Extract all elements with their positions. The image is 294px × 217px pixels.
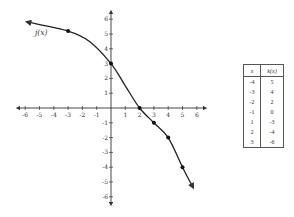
x-tick-label: 3 — [152, 111, 156, 118]
cell-kx: 5 — [261, 77, 284, 88]
data-point — [166, 136, 170, 140]
table-row: -10 — [244, 107, 284, 117]
function-label: j(x) — [33, 28, 47, 37]
y-tick-label: 1 — [104, 89, 108, 96]
data-point — [66, 29, 70, 33]
y-tick-label: -1 — [102, 119, 108, 126]
y-tick-label: -4 — [102, 163, 108, 170]
x-tick-label: -3 — [65, 111, 71, 118]
data-point — [138, 106, 142, 110]
cell-x: 2 — [244, 127, 261, 137]
cell-kx: -3 — [261, 117, 284, 127]
x-tick-label: 4 — [166, 111, 170, 118]
table-row: -22 — [244, 97, 284, 107]
values-table: x k(x) -45 -34 -22 -10 1-3 2-4 3-6 — [243, 64, 284, 148]
data-points — [66, 29, 184, 169]
y-tick-label: 4 — [104, 45, 108, 52]
column-header-kx: k(x) — [261, 65, 284, 77]
cell-kx: -6 — [261, 137, 284, 148]
cell-kx: 0 — [261, 107, 284, 117]
axes — [18, 12, 205, 204]
x-tick-label: 6 — [195, 111, 199, 118]
cell-x: 1 — [244, 117, 261, 127]
table-row: 1-3 — [244, 117, 284, 127]
column-header-x: x — [244, 65, 261, 77]
x-tick-label: -2 — [79, 111, 85, 118]
y-tick-label: 6 — [104, 15, 108, 22]
cell-x: -1 — [244, 107, 261, 117]
data-point — [109, 62, 113, 66]
x-tick-label: -4 — [51, 111, 57, 118]
function-graph: -6-5-4-3-2-1123456 654321-1-2-3-4-5-6 j(… — [0, 0, 220, 217]
y-tick-label: -3 — [102, 148, 108, 155]
cell-kx: 4 — [261, 87, 284, 97]
cell-kx: 2 — [261, 97, 284, 107]
y-tick-label: -6 — [102, 193, 108, 200]
x-tick-label: 1 — [123, 111, 127, 118]
y-tick-label: -2 — [102, 134, 108, 141]
cell-x: -4 — [244, 77, 261, 88]
cell-kx: -4 — [261, 127, 284, 137]
table-header-row: x k(x) — [244, 65, 284, 77]
y-tick-label: 3 — [104, 60, 108, 67]
x-tick-label: -1 — [94, 111, 100, 118]
data-point — [152, 121, 156, 125]
y-tick-label: 5 — [104, 30, 108, 37]
x-tick-label: -5 — [37, 111, 43, 118]
x-tick-label: 5 — [181, 111, 185, 118]
cell-x: 3 — [244, 137, 261, 148]
x-tick-label: 2 — [138, 111, 142, 118]
table-row: 3-6 — [244, 137, 284, 148]
y-tick-label: -5 — [102, 178, 108, 185]
table-row: -45 — [244, 77, 284, 88]
x-tick-label: -6 — [22, 111, 28, 118]
cell-x: -3 — [244, 87, 261, 97]
cell-x: -2 — [244, 97, 261, 107]
data-point — [181, 165, 185, 169]
table-row: -34 — [244, 87, 284, 97]
function-curve — [28, 22, 192, 186]
y-tick-label: 2 — [104, 74, 108, 81]
table-row: 2-4 — [244, 127, 284, 137]
